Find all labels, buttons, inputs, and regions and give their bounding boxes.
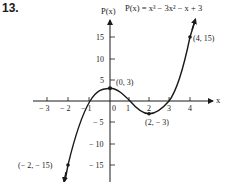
point-2-neg3 (147, 112, 151, 116)
svg-text:− 5: − 5 (93, 118, 104, 127)
function-graph: − 3 − 2 − 1 0 1 2 3 4 15 10 5 − 5 − 10 −… (0, 0, 225, 182)
point-neg2-neg15 (66, 163, 70, 167)
point-label-2-neg3: (2, − 3) (145, 118, 169, 127)
svg-text:− 15: − 15 (89, 161, 104, 170)
point-label-4-15: (4, 15) (193, 34, 215, 43)
svg-text:− 3: − 3 (39, 104, 50, 113)
x-tick-labels: − 3 − 2 − 1 0 1 2 3 4 (39, 104, 192, 113)
point-0-3 (108, 86, 112, 90)
svg-text:− 2: − 2 (60, 104, 71, 113)
svg-text:0: 0 (112, 104, 116, 113)
svg-text:10: 10 (96, 55, 104, 64)
svg-text:1: 1 (126, 104, 130, 113)
x-ticks (47, 97, 190, 101)
svg-text:4: 4 (188, 104, 192, 113)
svg-text:5: 5 (100, 76, 104, 85)
point-label-0-3: (0, 3) (116, 78, 134, 87)
point-4-15 (188, 35, 192, 39)
svg-text:2: 2 (147, 104, 151, 113)
svg-text:3: 3 (167, 104, 171, 113)
svg-text:− 10: − 10 (89, 140, 104, 149)
point-label-neg2-neg15: (− 2, − 15) (18, 161, 53, 170)
svg-text:15: 15 (96, 33, 104, 42)
